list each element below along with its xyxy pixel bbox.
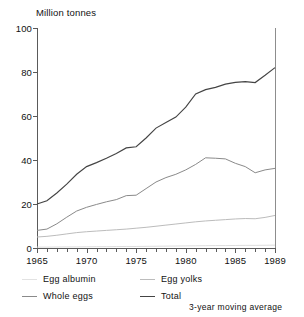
y-tick-label: 0 [27, 243, 32, 254]
line-egg-albumin [37, 245, 275, 247]
x-tick-label: 1985 [225, 255, 247, 266]
y-tick-label: 20 [21, 199, 32, 210]
x-tick-label: 1989 [264, 255, 286, 266]
legend-swatch-egg-albumin [22, 279, 37, 280]
legend-swatch-total [140, 296, 155, 297]
legend-label-egg-yolks: Egg yolks [161, 274, 202, 284]
series-lines [37, 28, 275, 249]
legend-item-egg-albumin: Egg albumin [22, 274, 96, 284]
x-tick-label: 1980 [175, 255, 197, 266]
right-axis-spine [275, 28, 276, 249]
chart-annotation-note: 3-year moving average [189, 302, 282, 312]
legend-label-total: Total [161, 291, 181, 301]
legend-label-whole-eggs: Whole eggs [43, 291, 93, 301]
legend-swatch-whole-eggs [22, 296, 37, 297]
chart-legend: Egg albumin Egg yolks Whole eggs Total 3… [0, 272, 304, 317]
y-axis-unit-label: Million tonnes [36, 7, 96, 18]
legend-item-whole-eggs: Whole eggs [22, 291, 93, 301]
x-tick-label: 1965 [26, 255, 48, 266]
legend-label-egg-albumin: Egg albumin [43, 274, 96, 284]
y-tick-label: 80 [21, 67, 32, 78]
y-tick-label: 60 [21, 111, 32, 122]
y-tick-label: 100 [16, 23, 32, 34]
plot-area: 020406080100 196519701975198019851989 [37, 28, 275, 248]
x-tick-label: 1975 [125, 255, 147, 266]
x-tick-mark-1989 [275, 248, 276, 253]
line-whole-eggs [37, 158, 275, 231]
x-tick-label: 1970 [76, 255, 98, 266]
line-total [37, 68, 275, 204]
legend-item-egg-yolks: Egg yolks [140, 274, 202, 284]
chart-figure: Million tonnes 020406080100 196519701975… [0, 0, 304, 317]
legend-item-total: Total [140, 291, 181, 301]
y-tick-label: 40 [21, 155, 32, 166]
legend-swatch-egg-yolks [140, 279, 155, 280]
line-egg-yolks [37, 215, 275, 237]
